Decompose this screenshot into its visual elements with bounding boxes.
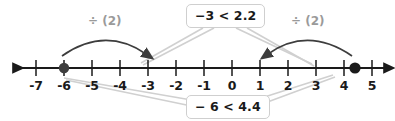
divide-label-left: ÷ (2) [88,14,122,28]
callout-original-inequality: − 6 < 4.4 [186,95,270,119]
point-marker-right [349,62,360,73]
number-line-diagram: -7 -6 -5 -4 -3 -2 -1 0 1 2 3 4 5 ÷ (2) ÷… [0,0,395,121]
divide-arrow-left [62,40,146,56]
divide-label-right: ÷ (2) [291,14,325,28]
tick-label-5: 5 [355,78,389,93]
point-marker-left [59,63,69,73]
callout-result-inequality: −3 < 2.2 [186,4,265,28]
